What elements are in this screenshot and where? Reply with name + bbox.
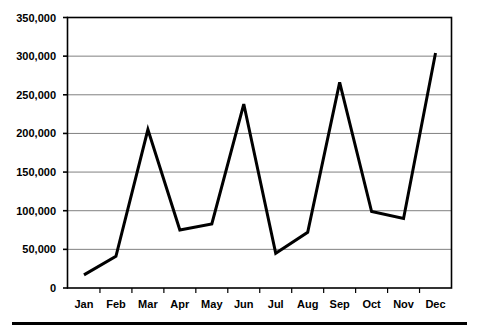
x-axis-tick-label: Apr: [170, 298, 189, 310]
x-axis-tick-label: Jan: [74, 298, 93, 310]
x-axis-tick-label: May: [201, 298, 222, 310]
x-axis-tick-label: Jun: [234, 298, 254, 310]
x-axis-tick-label: Feb: [106, 298, 126, 310]
x-axis-tick-label: Sep: [330, 298, 350, 310]
x-axis-tick-label: Mar: [138, 298, 158, 310]
x-axis-tick-label: Oct: [362, 298, 380, 310]
footer-rule: [12, 322, 467, 325]
line-chart: 050,000100,000150,000200,000250,000300,0…: [0, 0, 479, 332]
x-axis-tick-label: Jul: [268, 298, 284, 310]
x-axis-tick-label: Aug: [297, 298, 318, 310]
x-axis-tick-label: Nov: [393, 298, 414, 310]
x-axis-tick-label: Dec: [425, 298, 445, 310]
x-axis-tick-labels: JanFebMarAprMayJunJulAugSepOctNovDec: [0, 0, 479, 332]
